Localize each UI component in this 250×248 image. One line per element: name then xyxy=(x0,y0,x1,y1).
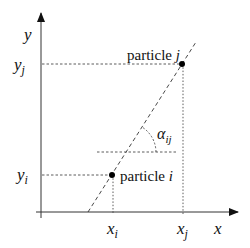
xi-label: xi xyxy=(106,219,118,241)
particle-angle-diagram: y x yj yi xi xj particle j particle i αi… xyxy=(0,0,250,248)
particle-j-label: particle j xyxy=(127,47,180,63)
particle-i-dot xyxy=(109,172,115,178)
yi-label: yi xyxy=(15,165,28,187)
connecting-line xyxy=(88,42,196,212)
angle-label: αij xyxy=(157,125,172,145)
yj-label: yj xyxy=(12,55,26,77)
particle-i-label: particle i xyxy=(120,168,173,184)
angle-arc xyxy=(142,127,156,152)
x-axis-label: x xyxy=(213,219,222,238)
xj-label: xj xyxy=(176,219,189,241)
y-axis-label: y xyxy=(22,25,32,44)
